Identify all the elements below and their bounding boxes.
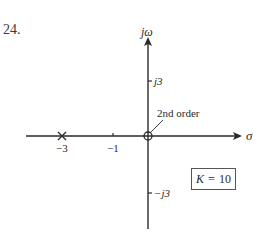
tick-label-minus-3: −3: [56, 143, 68, 154]
tick-label-j3: j3: [154, 76, 163, 87]
annotation-leader-line: [150, 120, 163, 133]
imag-axis-label: jω: [141, 26, 153, 38]
gain-value: 10: [219, 172, 231, 187]
gain-box: K = 10: [191, 168, 236, 190]
zero-order-annotation: 2nd order: [157, 108, 199, 119]
tick-label-minus-1: −1: [107, 143, 119, 154]
gain-symbol: K: [196, 172, 204, 187]
real-axis-label: σ: [246, 129, 252, 142]
gain-equals: =: [208, 172, 215, 187]
tick-label-minus-j3: −j3: [154, 188, 170, 199]
s-plane-diagram: [0, 0, 267, 246]
